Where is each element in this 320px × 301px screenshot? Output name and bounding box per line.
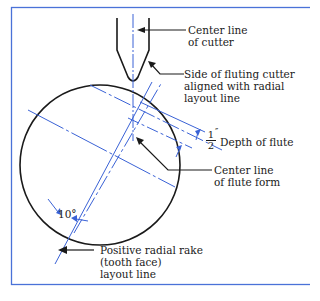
depth-arrow-top xyxy=(195,129,201,136)
radial-layout-line xyxy=(55,82,152,264)
leader-flute-center xyxy=(138,140,212,170)
tangent-line xyxy=(28,110,175,187)
depth-line-lower xyxy=(128,118,192,148)
leader-cutter-side xyxy=(151,64,184,74)
label-cutter-center-line: Center line of cutter xyxy=(188,24,248,48)
label-cutter-side: Side of fluting cutter aligned with radi… xyxy=(184,68,295,104)
label-angle: 10° xyxy=(58,208,77,220)
label-rake: Positive radial rake (tooth face) layout… xyxy=(100,244,203,280)
depth-line-top xyxy=(140,102,205,132)
label-flute-center: Center line of flute form xyxy=(214,164,280,188)
